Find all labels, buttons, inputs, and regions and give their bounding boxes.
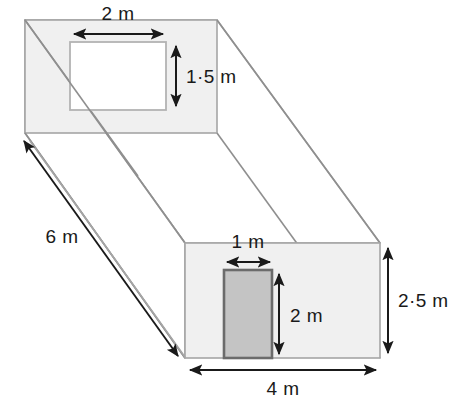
diagram-canvas: 2 m 1·5 m 6 m 1 m 2 m 2·5 m: [0, 0, 465, 406]
dimension-front-height-label: 2·5 m: [398, 290, 449, 311]
dimension-depth-label: 6 m: [46, 226, 79, 247]
dimension-front-width: 4 m: [190, 370, 376, 399]
dimension-window-width-label: 2 m: [102, 3, 135, 24]
back-face-window: [70, 42, 166, 110]
cuboid-figure: 2 m 1·5 m 6 m 1 m 2 m 2·5 m: [0, 0, 465, 406]
dimension-front-width-label: 4 m: [267, 378, 300, 399]
dimension-front-height: 2·5 m: [388, 248, 449, 353]
dimension-door-width-label: 1 m: [232, 231, 265, 252]
front-face-group: [185, 243, 380, 358]
front-face: [185, 243, 380, 358]
front-face-door: [224, 270, 272, 358]
dimension-door-height-label: 2 m: [290, 305, 323, 326]
dimension-window-height-label: 1·5 m: [186, 66, 237, 87]
